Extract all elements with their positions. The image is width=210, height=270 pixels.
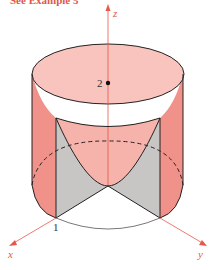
x-axis: [12, 218, 56, 244]
y-axis: [160, 218, 204, 244]
x-axis-label: x: [7, 248, 13, 260]
radius-label: 1: [53, 221, 59, 233]
height-point: [106, 81, 110, 85]
x-axis-arrow-icon: [9, 240, 17, 246]
cylinder-paraboloid-diagram: z x y 2 1: [0, 0, 210, 270]
z-axis-arrow-icon: [106, 4, 111, 11]
y-axis-label: y: [197, 248, 203, 260]
y-axis-arrow-icon: [199, 240, 207, 246]
cylinder-left-wall: [32, 74, 56, 218]
cylinder-right-wall: [160, 74, 183, 218]
height-label: 2: [97, 77, 103, 89]
base-front-arc: [56, 218, 160, 229]
z-axis-label: z: [112, 7, 118, 19]
